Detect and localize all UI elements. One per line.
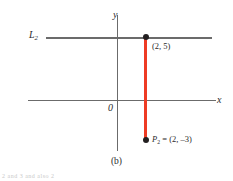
point-label-bottom: P2 = (2, –3) [152, 135, 192, 145]
coordinate-plane-figure: L2 y x 0 (2, 5) P2 = (2, –3) (b) 2 and 3… [0, 0, 233, 181]
point-marker-bottom [143, 137, 149, 143]
point-label-top: (2, 5) [152, 42, 170, 51]
point-label-bottom-coords: (2, –3) [169, 134, 192, 144]
origin-label: 0 [108, 103, 113, 113]
clipped-text-fragment: 2 and 3 and also 2 [2, 173, 55, 179]
point-marker-top [143, 34, 149, 40]
figure-caption: (b) [0, 156, 233, 166]
y-axis-line [117, 15, 118, 151]
line-label-subscript: 2 [35, 34, 38, 41]
y-axis-label: y [113, 10, 117, 20]
x-axis-label: x [217, 95, 221, 105]
x-axis-line [28, 100, 216, 101]
point-label-bottom-equals: = [160, 134, 169, 144]
line-label-l2: L2 [29, 30, 38, 42]
red-vertical-segment [144, 37, 147, 140]
horizontal-line-l2 [46, 37, 212, 39]
